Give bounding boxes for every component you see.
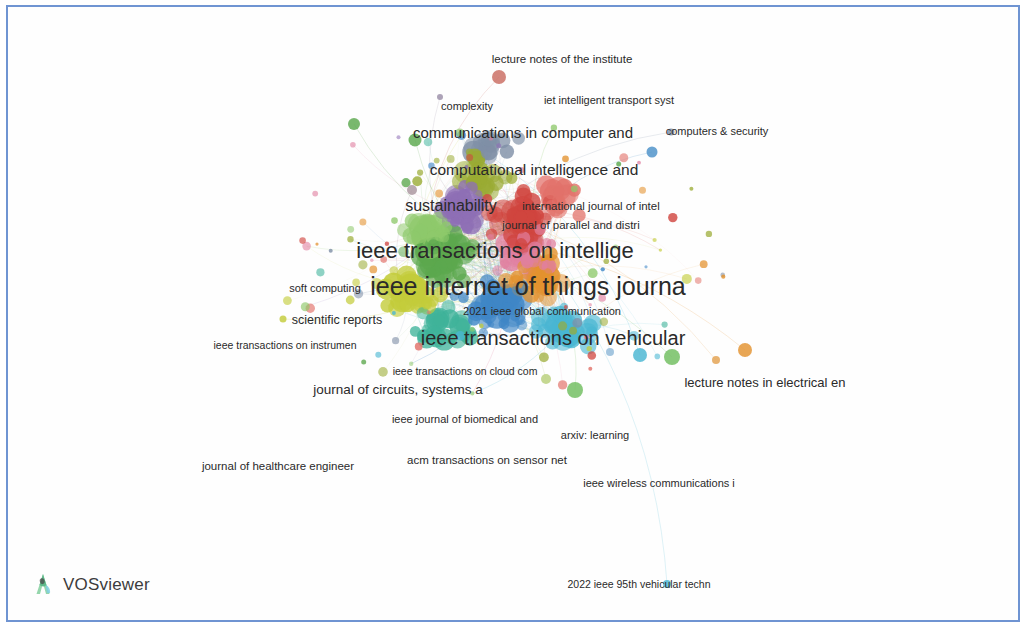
graph-node[interactable] (668, 213, 677, 222)
graph-node[interactable] (392, 337, 399, 344)
graph-node[interactable] (659, 248, 662, 251)
graph-node[interactable] (517, 184, 531, 198)
graph-node[interactable] (706, 231, 712, 237)
vosviewer-leaf-icon (30, 572, 56, 598)
node-label[interactable]: ieee wireless communications i (583, 477, 735, 489)
graph-node-outlier[interactable] (712, 356, 720, 364)
node-label[interactable]: 2021 ieee global communication (463, 305, 621, 317)
vosviewer-logo-text: VOSviewer (63, 575, 150, 595)
graph-node[interactable] (721, 275, 725, 279)
node-label[interactable]: arxiv: learning (561, 429, 629, 441)
graph-node-outlier[interactable] (492, 70, 506, 84)
graph-node[interactable] (350, 142, 356, 148)
graph-node[interactable] (359, 219, 366, 226)
graph-node[interactable] (689, 187, 693, 191)
graph-node-outlier[interactable] (280, 316, 287, 323)
node-label[interactable]: ieee internet of things journa (370, 272, 686, 301)
graph-node[interactable] (554, 186, 565, 197)
graph-node[interactable] (600, 318, 608, 326)
graph-node[interactable] (700, 260, 708, 268)
graph-node[interactable] (397, 135, 401, 139)
graph-node[interactable] (466, 154, 473, 161)
node-label[interactable]: ieee transactions on vehicular (421, 327, 686, 350)
node-label[interactable]: journal of healthcare engineer (202, 460, 354, 472)
node-label[interactable]: ieee transactions on instrumen (214, 339, 357, 351)
graph-node[interactable] (375, 352, 381, 358)
node-label[interactable]: journal of parallel and distri (502, 219, 639, 231)
node-label[interactable]: scientific reports (292, 313, 382, 327)
graph-node[interactable] (378, 367, 388, 377)
graph-node[interactable] (315, 243, 318, 246)
graph-node-outlier[interactable] (647, 147, 658, 158)
node-label[interactable]: international journal of intel (522, 200, 659, 212)
vosviewer-window: lecture notes of the institutecomplexity… (6, 5, 1020, 622)
graph-node[interactable] (347, 226, 354, 233)
graph-node[interactable] (412, 176, 422, 186)
node-label[interactable]: computational intelligence and (430, 161, 639, 179)
graph-node[interactable] (361, 359, 366, 364)
graph-node[interactable] (380, 299, 394, 313)
node-label[interactable]: iet intelligent transport syst (544, 94, 674, 106)
node-label[interactable]: lecture notes in electrical en (684, 375, 845, 390)
graph-node[interactable] (397, 223, 411, 237)
graph-node[interactable] (434, 315, 445, 326)
node-label[interactable]: ieee journal of biomedical and (392, 413, 538, 425)
graph-node[interactable] (392, 311, 396, 315)
node-label[interactable]: lecture notes of the institute (492, 53, 633, 65)
node-label[interactable]: 2022 ieee 95th vehicular techn (567, 578, 710, 590)
node-label[interactable]: acm transactions on sensor net (407, 454, 567, 466)
graph-node[interactable] (410, 326, 421, 337)
graph-node-outlier[interactable] (633, 348, 647, 362)
graph-node[interactable] (539, 352, 549, 362)
node-label[interactable]: computers & security (666, 125, 769, 137)
graph-node[interactable] (417, 170, 423, 176)
node-label[interactable]: ieee transactions on intellige (356, 238, 634, 264)
graph-node[interactable] (450, 217, 460, 227)
graph-node[interactable] (329, 249, 333, 253)
graph-node-outlier[interactable] (738, 343, 752, 357)
graph-node[interactable] (653, 238, 657, 242)
graph-node[interactable] (391, 217, 398, 224)
graph-node[interactable] (571, 185, 578, 192)
graph-node[interactable] (301, 302, 310, 311)
graph-node[interactable] (346, 296, 355, 305)
node-label[interactable]: journal of circuits, systems a (313, 382, 483, 397)
vosviewer-logo: VOSviewer (30, 572, 150, 598)
graph-node[interactable] (441, 300, 455, 314)
graph-node[interactable] (283, 296, 292, 305)
graph-node[interactable] (644, 265, 647, 268)
node-label[interactable]: complexity (441, 100, 493, 112)
network-canvas[interactable]: lecture notes of the institutecomplexity… (8, 7, 1018, 620)
graph-node-outlier[interactable] (348, 118, 360, 130)
graph-node[interactable] (427, 310, 431, 314)
graph-node[interactable] (588, 351, 597, 360)
graph-node[interactable] (312, 191, 318, 197)
graph-node[interactable] (347, 236, 353, 242)
graph-node-outlier[interactable] (407, 185, 417, 195)
graph-node[interactable] (639, 187, 646, 194)
graph-node[interactable] (588, 367, 592, 371)
graph-node[interactable] (461, 222, 472, 233)
graph-node[interactable] (299, 237, 306, 244)
graph-node-outlier[interactable] (664, 349, 680, 365)
node-label[interactable]: sustainability (405, 197, 497, 215)
node-label[interactable]: communications in computer and (413, 124, 633, 141)
graph-node[interactable] (500, 144, 514, 158)
node-label[interactable]: ieee transactions on cloud com (393, 365, 538, 377)
graph-node[interactable] (695, 277, 702, 284)
graph-node[interactable] (655, 354, 661, 360)
graph-node-outlier[interactable] (567, 382, 583, 398)
node-label[interactable]: soft computing (289, 282, 361, 294)
graph-node[interactable] (316, 268, 324, 276)
graph-node[interactable] (558, 380, 567, 389)
graph-node-outlier[interactable] (541, 374, 551, 384)
graph-node[interactable] (496, 143, 501, 148)
